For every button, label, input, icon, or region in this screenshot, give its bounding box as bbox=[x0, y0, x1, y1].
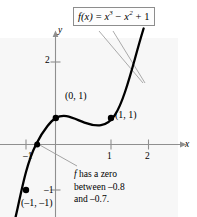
x-tick-label-neg1: –1 bbox=[23, 152, 33, 162]
formula-leader-lines bbox=[99, 31, 145, 83]
annotation-line-3: and –0.7. bbox=[74, 193, 125, 206]
point-label-lower-left: (–1, –1) bbox=[21, 198, 53, 208]
annotation-line-1: f has a zero bbox=[74, 168, 125, 181]
point-marker-1-1 bbox=[108, 115, 114, 121]
formula-minus: − bbox=[116, 11, 122, 22]
point-marker-neg1-neg1 bbox=[23, 187, 29, 193]
y-axis-label: y bbox=[58, 26, 62, 36]
formula-callout-box: f(x) = x3 − x2 + 1 bbox=[73, 7, 155, 26]
point-marker-0-1 bbox=[53, 115, 59, 121]
annotation-line-1-rest: has a zero bbox=[77, 169, 117, 179]
formula-equals: = bbox=[96, 11, 102, 22]
x-tick-label-2: 2 bbox=[145, 152, 150, 162]
y-tick-label-neg1: –1 bbox=[44, 186, 54, 196]
x-tick-label-1: 1 bbox=[107, 152, 112, 162]
zero-leader-line bbox=[38, 144, 77, 166]
y-tick-label-2: 2 bbox=[45, 56, 50, 66]
point-marker-zero-crossing bbox=[34, 142, 40, 148]
function-graph-figure: f(x) = x3 − x2 + 1 x y –1 1 2 2 –1 (0, 1… bbox=[0, 0, 197, 217]
x-axis-label: x bbox=[185, 140, 189, 150]
zero-annotation: f has a zero between –0.8 and –0.7. bbox=[74, 168, 125, 206]
point-label-local-min: (1, 1) bbox=[115, 110, 137, 120]
formula-lhs: f(x) bbox=[78, 11, 93, 22]
formula-constant: 1 bbox=[144, 11, 149, 22]
point-label-origin: (0, 1) bbox=[65, 91, 87, 101]
annotation-line-2: between –0.8 bbox=[74, 181, 125, 194]
x-axis bbox=[0, 142, 187, 148]
formula-plus: + bbox=[135, 11, 141, 22]
